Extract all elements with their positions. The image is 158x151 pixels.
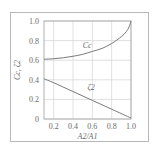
y-tick-label: 0.2: [29, 95, 39, 104]
x-tick-label: 0.2: [49, 122, 59, 131]
y-axis-label: Cc, ζ2: [13, 60, 22, 80]
y-tick-label: 0.6: [29, 56, 39, 65]
x-tick-label: 0.6: [87, 122, 97, 131]
series-line-cc: [44, 21, 131, 59]
horizontal-gridlines: [44, 21, 131, 119]
chart: 0.20.40.60.81.0 00.20.40.60.81.0 A2/A1 C…: [0, 0, 158, 151]
series-label-cc: Cc: [83, 41, 92, 50]
series-label-zeta2: ζ2: [88, 83, 95, 92]
y-tick-labels: 00.20.40.60.81.0: [29, 17, 39, 124]
series-group: [44, 21, 131, 118]
x-tick-labels: 0.20.40.60.81.0: [49, 122, 136, 131]
x-tick-label: 1.0: [126, 122, 136, 131]
x-axis-label: A2/A1: [77, 132, 98, 141]
y-tick-label: 1.0: [29, 17, 39, 26]
y-tick-label: 0: [35, 115, 39, 124]
x-tick-label: 0.4: [68, 122, 78, 131]
plot-area-border: [44, 21, 131, 119]
x-tick-label: 0.8: [107, 122, 117, 131]
vertical-gridlines: [54, 21, 131, 119]
y-tick-label: 0.4: [29, 76, 39, 85]
y-tick-label: 0.8: [29, 37, 39, 46]
